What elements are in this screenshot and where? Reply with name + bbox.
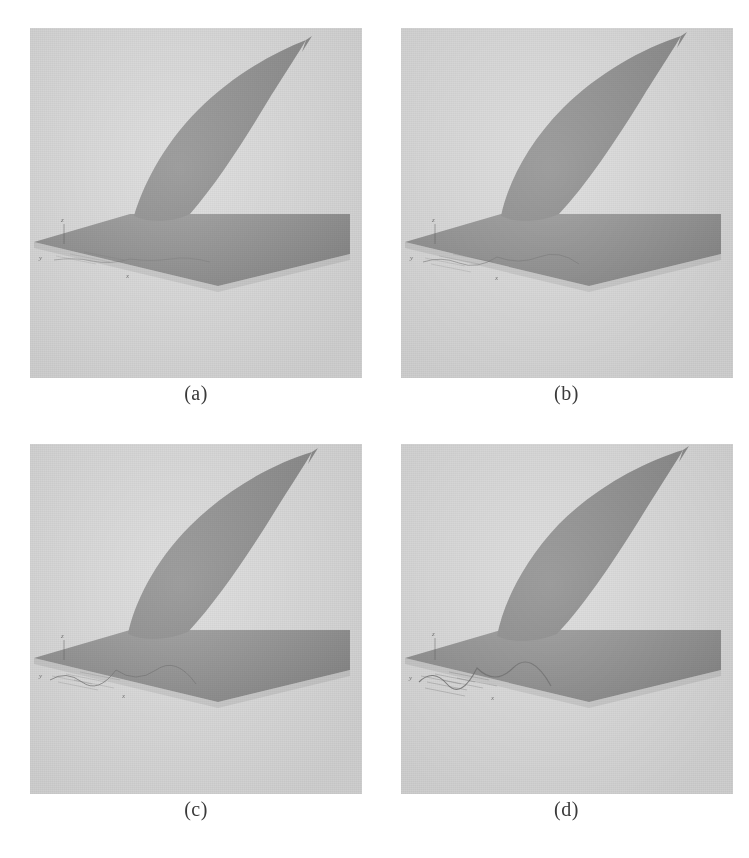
base-plate-d — [405, 630, 721, 702]
z-axis-label-a: z — [60, 216, 64, 224]
surface-plot-b: z y x — [401, 28, 733, 378]
plot-panel-d: z y x — [401, 444, 733, 794]
y-axis-label-d: y — [408, 674, 413, 682]
plot-panel-b: z y x — [401, 28, 733, 378]
surface-plot-a: z y x — [30, 28, 362, 378]
z-axis-label-b: z — [431, 216, 435, 224]
y-axis-label-b: y — [409, 254, 414, 262]
caption-b: (b) — [401, 382, 733, 405]
figure-cell-c: z y x (c) — [0, 429, 375, 858]
surface-sheet-d — [497, 450, 683, 641]
surface-sheet-a — [134, 40, 306, 221]
surface-plot-d: z y x — [401, 444, 733, 794]
z-axis-label-c: z — [60, 632, 64, 640]
base-plate-b — [405, 214, 721, 286]
caption-c: (c) — [30, 798, 362, 821]
figure-grid: z y x (a) — [0, 0, 749, 858]
surface-sheet-b — [501, 36, 681, 221]
caption-d: (d) — [401, 798, 733, 821]
base-plate-a — [34, 214, 350, 286]
x-axis-label-a: x — [125, 272, 130, 280]
figure-cell-b: z y x (b) — [375, 0, 749, 429]
y-axis-label-a: y — [38, 254, 43, 262]
x-axis-label-d: x — [490, 694, 495, 702]
surface-plot-c: z y x — [30, 444, 362, 794]
plot-panel-a: z y x — [30, 28, 362, 378]
surface-sheet-c — [128, 452, 312, 639]
caption-a: (a) — [30, 382, 362, 405]
base-plate-c — [34, 630, 350, 702]
x-axis-label-b: x — [494, 274, 499, 282]
figure-cell-d: z y x (d) — [375, 429, 749, 858]
figure-cell-a: z y x (a) — [0, 0, 375, 429]
y-axis-label-c: y — [38, 672, 43, 680]
x-axis-label-c: x — [121, 692, 126, 700]
plot-panel-c: z y x — [30, 444, 362, 794]
z-axis-label-d: z — [431, 630, 435, 638]
